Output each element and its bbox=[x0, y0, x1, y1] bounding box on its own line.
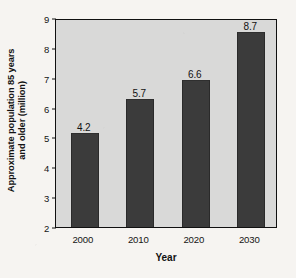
bar-value-label: 4.2 bbox=[77, 122, 90, 133]
y-tick-label: 2 bbox=[33, 223, 49, 234]
bar-chart-figure: Approximate population 85 years and olde… bbox=[0, 0, 296, 278]
y-tick-label: 4 bbox=[33, 163, 49, 174]
x-axis-title: Year bbox=[55, 252, 277, 263]
y-tick-label: 6 bbox=[33, 103, 49, 114]
plot-area: 4.25.76.68.7 bbox=[55, 19, 277, 228]
bar-value-label: 6.6 bbox=[188, 69, 201, 80]
y-axis-title-line-2: and older (million) bbox=[18, 48, 29, 192]
y-tick-label: 7 bbox=[33, 73, 49, 84]
x-tick-label: 2010 bbox=[128, 234, 149, 245]
x-tick-label: 2020 bbox=[183, 234, 204, 245]
plot-inner: 4.25.76.68.7 bbox=[56, 20, 276, 227]
x-tick-label: 2000 bbox=[72, 234, 93, 245]
y-axis-title: Approximate population 85 years and olde… bbox=[7, 48, 30, 192]
bar bbox=[237, 32, 265, 227]
y-axis-title-line-1: Approximate population 85 years bbox=[7, 48, 18, 192]
bar bbox=[71, 133, 99, 227]
bar bbox=[182, 80, 210, 227]
y-tick-label: 5 bbox=[33, 133, 49, 144]
bar bbox=[126, 99, 154, 227]
bar-value-label: 8.7 bbox=[244, 21, 257, 32]
x-tick-label: 2030 bbox=[239, 234, 260, 245]
bar-value-label: 5.7 bbox=[133, 88, 146, 99]
y-tick-label: 9 bbox=[33, 14, 49, 25]
y-tick-label: 8 bbox=[33, 43, 49, 54]
y-axis-title-container: Approximate population 85 years and olde… bbox=[0, 0, 36, 240]
y-tick-label: 3 bbox=[33, 193, 49, 204]
